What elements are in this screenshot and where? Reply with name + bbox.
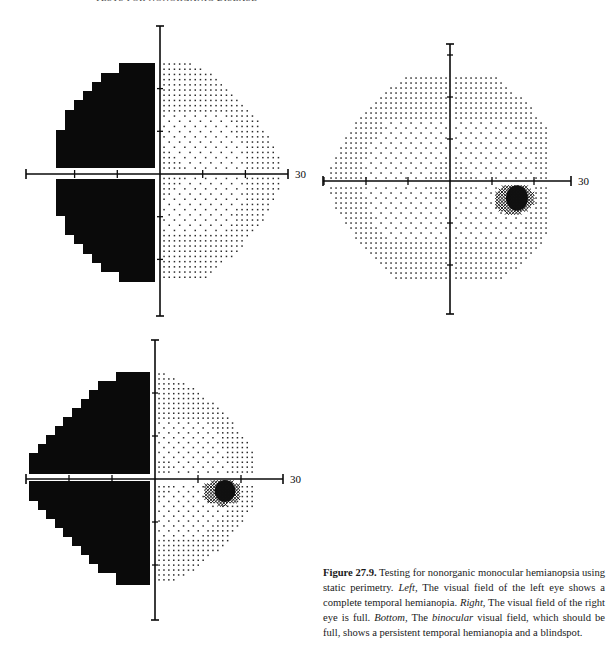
- blindspot: [495, 185, 534, 214]
- figure-caption: Figure 27.9. Testing for nonorganic mono…: [323, 565, 605, 640]
- caption-fragment: Bottom,: [374, 612, 407, 623]
- caption-fragment: binocular: [432, 612, 473, 623]
- axis-label-30deg: 30: [578, 175, 590, 187]
- visual-field-dots: [330, 77, 547, 278]
- figure-number: Figure 27.9.: [323, 567, 377, 578]
- panel-right-eye: 30: [323, 44, 590, 314]
- caption-fragment: Right,: [460, 597, 486, 608]
- visual-field-dots: [158, 373, 253, 580]
- blindspot: [204, 480, 240, 506]
- caption-fragment: Left,: [398, 582, 417, 593]
- caption-fragment: The: [408, 612, 432, 623]
- axis-label-30deg: 30: [295, 168, 307, 180]
- visual-field-dots: [163, 63, 279, 278]
- panel-left-eye: 30: [26, 26, 307, 316]
- panel-binocular: 30: [26, 340, 302, 620]
- axes: 30: [26, 340, 302, 620]
- perimetry-figure: 30 30 30: [0, 0, 609, 645]
- hemianopia-defect: [56, 63, 155, 282]
- axes: 30: [26, 26, 307, 316]
- axis-label-30deg: 30: [290, 473, 302, 485]
